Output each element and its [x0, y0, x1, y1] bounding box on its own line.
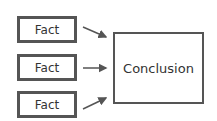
conclusion-label: Conclusion — [123, 61, 194, 76]
conclusion-box: Conclusion — [113, 32, 204, 104]
arrow-icon-3 — [83, 98, 106, 109]
arrow-icon-1 — [83, 27, 106, 37]
